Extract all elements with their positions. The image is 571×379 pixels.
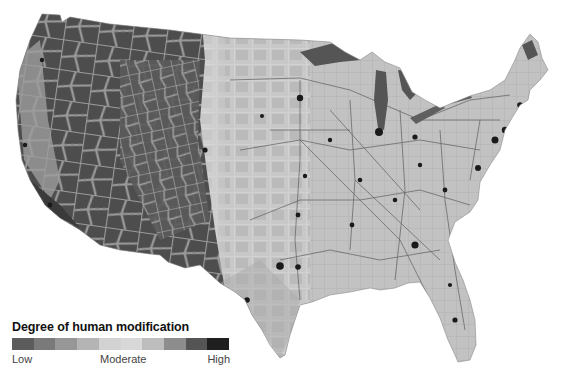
legend-label-low: Low [12,353,32,365]
legend-swatch [121,338,143,350]
legend-swatch [12,338,34,350]
legend-swatch [164,338,186,350]
legend-label-high: High [207,353,230,365]
legend-labels: Low Moderate High [12,353,232,367]
legend-swatch [77,338,99,350]
legend-swatch [186,338,208,350]
legend-swatch [99,338,121,350]
legend-swatch [55,338,77,350]
legend-label-moderate: Moderate [100,353,146,365]
legend-swatch [142,338,164,350]
legend-color-ramp [12,338,229,350]
map-legend: Degree of human modification Low Moderat… [12,320,232,367]
legend-title: Degree of human modification [12,320,232,334]
legend-swatch [207,338,229,350]
legend-swatch [34,338,56,350]
